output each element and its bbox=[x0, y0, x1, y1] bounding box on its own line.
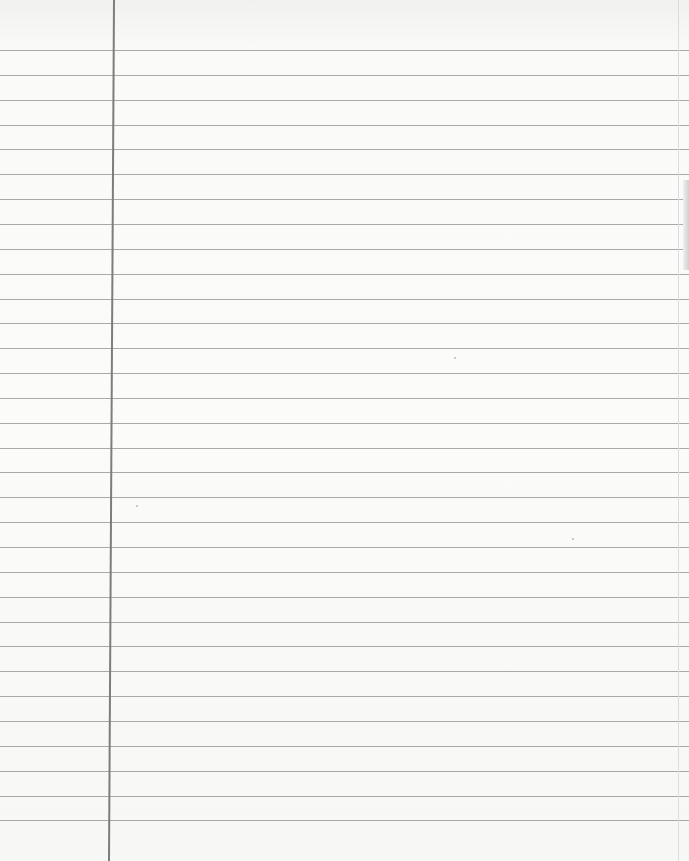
ruled-line bbox=[0, 75, 689, 76]
ruled-line bbox=[0, 721, 689, 722]
ruled-line bbox=[0, 149, 689, 150]
ruled-line bbox=[0, 174, 689, 175]
ruled-line bbox=[0, 50, 689, 51]
ruled-line bbox=[0, 522, 689, 523]
ruled-line bbox=[0, 224, 689, 225]
ruled-line bbox=[0, 125, 689, 126]
ruled-line bbox=[0, 249, 689, 250]
ruled-line bbox=[0, 448, 689, 449]
ruled-line bbox=[0, 597, 689, 598]
ruled-line bbox=[0, 820, 689, 821]
margin-line bbox=[108, 0, 114, 861]
ruled-line bbox=[0, 646, 689, 647]
paper-speck bbox=[136, 505, 138, 507]
ruled-line bbox=[0, 398, 689, 399]
paper-speck bbox=[572, 538, 574, 540]
ruled-line bbox=[0, 572, 689, 573]
ruled-line bbox=[0, 373, 689, 374]
ruled-line bbox=[0, 299, 689, 300]
lined-paper bbox=[0, 0, 689, 861]
page-edge bbox=[678, 0, 679, 861]
ruled-line bbox=[0, 671, 689, 672]
page-edge-shadow bbox=[683, 180, 689, 270]
ruled-line bbox=[0, 100, 689, 101]
ruled-line bbox=[0, 323, 689, 324]
ruled-line bbox=[0, 423, 689, 424]
ruled-line bbox=[0, 472, 689, 473]
ruled-line bbox=[0, 771, 689, 772]
ruled-line bbox=[0, 274, 689, 275]
ruled-line bbox=[0, 746, 689, 747]
ruled-line bbox=[0, 796, 689, 797]
ruled-line bbox=[0, 622, 689, 623]
ruled-line bbox=[0, 199, 689, 200]
ruled-line bbox=[0, 696, 689, 697]
paper-speck bbox=[454, 357, 456, 359]
ruled-line bbox=[0, 547, 689, 548]
ruled-line bbox=[0, 497, 689, 498]
ruled-line bbox=[0, 348, 689, 349]
